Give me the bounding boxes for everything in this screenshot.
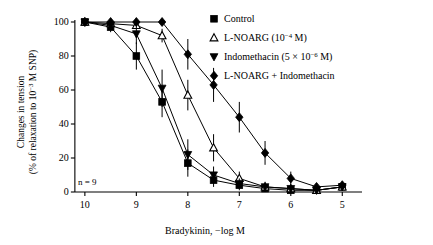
y-tick-label: 60 xyxy=(59,84,69,95)
legend-item-3[interactable]: Indomethacin (5 × 10−6 M) xyxy=(210,51,332,63)
y-tick-label: 40 xyxy=(59,118,69,129)
sample-size-annotation: n = 9 xyxy=(78,177,97,187)
series-line xyxy=(85,22,342,190)
x-tick-label: 5 xyxy=(340,199,345,210)
series-line xyxy=(85,22,342,190)
x-tick-label: 9 xyxy=(134,199,139,210)
series-line xyxy=(85,22,342,190)
legend-label: Indomethacin (5 × 10−6 M) xyxy=(224,51,332,63)
legend[interactable]: ControlL-NOARG (10−4 M)Indomethacin (5 ×… xyxy=(210,13,335,81)
legend-item-2[interactable]: L-NOARG (10−4 M) xyxy=(210,32,307,44)
data-series xyxy=(81,18,346,195)
x-tick-label: 8 xyxy=(185,199,190,210)
y-tick-label: 0 xyxy=(64,186,69,197)
legend-label: L-NOARG (10−4 M) xyxy=(224,32,307,44)
data-point-marker xyxy=(132,31,140,38)
data-point-marker xyxy=(211,15,218,22)
data-point-marker xyxy=(133,53,140,60)
x-tick-label: 10 xyxy=(80,199,90,210)
series-3 xyxy=(81,19,346,195)
legend-label: L-NOARG + Indomethacin xyxy=(224,70,335,81)
y-axis-title: Changes in tension (% of relaxation to 1… xyxy=(16,50,39,174)
figure-container: Changes in tension (% of relaxation to 1… xyxy=(0,0,433,245)
data-point-marker xyxy=(210,144,218,151)
data-point-marker xyxy=(184,91,192,98)
y-axis-title-line1: Changes in tension xyxy=(16,76,26,149)
legend-label: Control xyxy=(224,13,255,24)
bradykinin-dose-response-chart: Changes in tension (% of relaxation to 1… xyxy=(0,0,433,245)
y-tick-label: 20 xyxy=(59,152,69,163)
tick-labels: 0204060801001098765 xyxy=(54,16,345,210)
series-line xyxy=(85,22,342,187)
data-point-marker xyxy=(210,54,218,61)
data-point-marker xyxy=(210,71,217,80)
x-tick-label: 6 xyxy=(288,199,293,210)
legend-item-1[interactable]: Control xyxy=(211,13,255,24)
series-4 xyxy=(81,18,346,192)
legend-item-4[interactable]: L-NOARG + Indomethacin xyxy=(210,70,334,81)
x-axis-title: Bradykinin, −log M xyxy=(165,225,245,236)
y-axis-title-line2: (% of relaxation to 10−3 M SNP) xyxy=(27,50,39,174)
data-point-marker xyxy=(210,34,218,41)
data-point-marker xyxy=(158,85,166,92)
data-point-marker xyxy=(158,32,166,39)
x-tick-label: 7 xyxy=(237,199,242,210)
axes xyxy=(71,20,362,196)
y-tick-label: 80 xyxy=(59,50,69,61)
y-tick-label: 100 xyxy=(54,16,69,27)
